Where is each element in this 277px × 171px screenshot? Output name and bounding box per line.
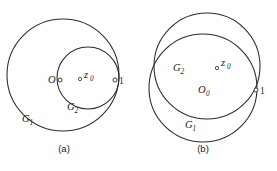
figure-svg: O z 0 1 G 1 G 2 (a): [0, 0, 277, 171]
label-z-sub-panel-a: 0: [90, 75, 94, 83]
curve-label-g1-sub-panel-a: 1: [30, 119, 34, 127]
label-point-z0-panel-a: z 0: [83, 69, 94, 83]
curve-label-g2-sub-panel-a: 2: [75, 107, 79, 115]
curve-label-g1-sub-panel-b: 1: [193, 125, 197, 133]
point-marker-one-panel-a: [113, 78, 117, 82]
panel-b-group: z 0 O 0 1 G 2 G 1 (b): [149, 13, 265, 154]
label-point-o-panel-a: O: [48, 74, 56, 85]
curve-label-g2-panel-b: G 2: [173, 62, 185, 76]
label-o-base-panel-b: O: [198, 84, 206, 95]
label-z-base-panel-a: z: [83, 69, 88, 80]
label-z-sub-panel-b: 0: [227, 63, 231, 71]
point-marker-z0-panel-a: [78, 77, 81, 80]
circle-g2-panel-b: [154, 13, 260, 119]
point-marker-one-panel-b: [254, 88, 258, 92]
point-marker-z0-panel-b: [215, 66, 218, 69]
curve-label-g1-panel-b: G 1: [185, 119, 196, 133]
curve-label-g2-panel-a: G 2: [67, 101, 79, 115]
figure-container: O z 0 1 G 1 G 2 (a): [0, 0, 277, 171]
label-point-z0-panel-b: z 0: [220, 57, 231, 71]
label-o-sub-panel-b: 0: [206, 90, 210, 98]
label-point-o0-panel-b: O 0: [198, 84, 210, 98]
label-point-one-panel-b: 1: [260, 86, 265, 96]
label-z-base-panel-b: z: [220, 57, 225, 68]
curve-label-g2-sub-panel-b: 2: [181, 68, 185, 76]
curve-label-g1-panel-a: G 1: [22, 113, 33, 127]
caption-panel-b: (b): [197, 143, 209, 154]
caption-panel-a: (a): [58, 143, 70, 154]
panel-a-group: O z 0 1 G 1 G 2 (a): [7, 19, 124, 154]
point-marker-o-panel-a: [58, 78, 62, 82]
label-point-one-panel-a: 1: [119, 76, 124, 86]
